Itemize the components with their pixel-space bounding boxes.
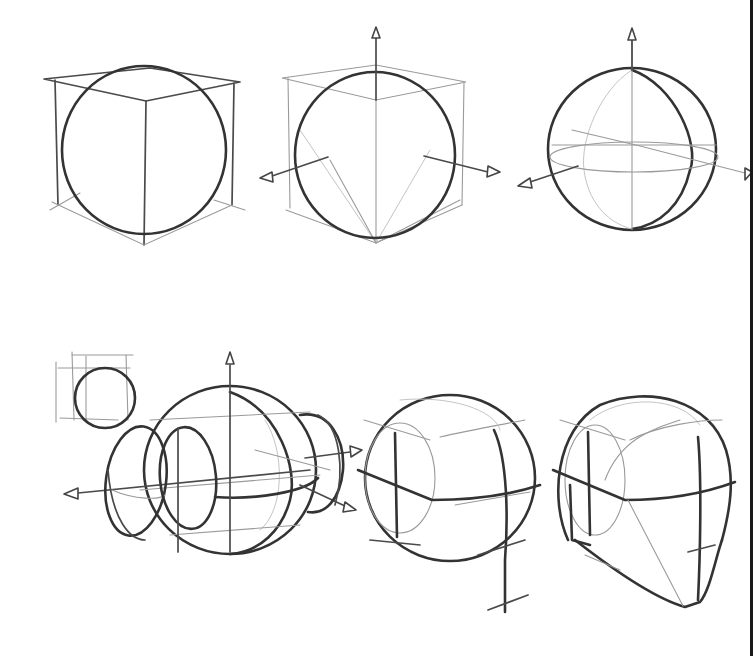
figure-sphere-with-side-planes xyxy=(64,352,362,554)
figure-head-with-jaw xyxy=(553,396,735,607)
figure-sphere-with-axes xyxy=(518,28,752,230)
sketch-canvas xyxy=(0,0,753,656)
figure-sphere-in-cube-with-axes xyxy=(260,27,500,243)
figure-thumbnail-sphere xyxy=(56,352,135,428)
figure-sphere-in-cube xyxy=(44,66,245,245)
figure-head-cranium xyxy=(358,395,540,612)
